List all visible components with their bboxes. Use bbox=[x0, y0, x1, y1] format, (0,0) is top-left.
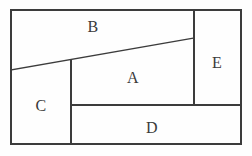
region-label-a: A bbox=[127, 70, 139, 86]
region-label-e: E bbox=[212, 55, 222, 71]
figure-lines bbox=[11, 10, 241, 144]
figure-internal-lines bbox=[11, 38, 194, 70]
region-label-d: D bbox=[146, 120, 158, 136]
figure-canvas bbox=[0, 0, 252, 156]
region-label-c: C bbox=[36, 98, 47, 114]
region-label-b: B bbox=[88, 19, 99, 35]
diagonal-divider-line bbox=[11, 38, 194, 70]
rectangle-dissection-figure: B A C D E bbox=[0, 0, 252, 156]
